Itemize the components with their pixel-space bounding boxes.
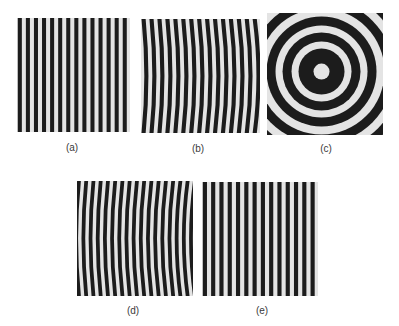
panel-d-curved-fringes — [77, 181, 193, 296]
panel-c-concentric-rings — [267, 13, 383, 135]
panel-e-label: (e) — [256, 306, 268, 316]
panel-a-straight-fringes — [17, 18, 130, 132]
panel-c-label: (c) — [320, 144, 332, 154]
panel-a-label: (a) — [66, 143, 78, 153]
panel-d-label: (d) — [127, 306, 139, 316]
panel-b-curved-fringes — [141, 19, 260, 133]
panel-b-label: (b) — [192, 144, 204, 154]
panel-e-straight-fringes — [202, 182, 318, 296]
